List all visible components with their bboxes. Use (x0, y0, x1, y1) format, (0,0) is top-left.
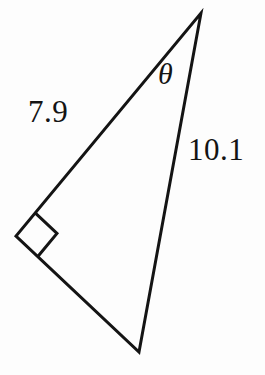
angle-label-theta: θ (158, 59, 173, 89)
geometry-figure: 7.9 10.1 θ (0, 0, 265, 375)
side-length-label-left: 7.9 (28, 96, 68, 127)
triangle-diagram (0, 0, 265, 375)
side-length-label-right: 10.1 (188, 134, 244, 165)
figure-background (0, 0, 265, 375)
